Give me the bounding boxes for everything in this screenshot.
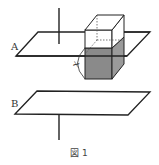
cube-front-upper [85, 30, 112, 48]
dimension-label-x: x [69, 60, 81, 69]
plane-b-label: B [11, 98, 18, 109]
plane-a-label: A [10, 41, 19, 52]
plane-a [16, 32, 150, 56]
plane-b [15, 91, 150, 115]
cube-front-submerged [85, 48, 112, 79]
figure-1-diagram: x A B 図 1 [0, 0, 159, 165]
figure-caption: 図 1 [70, 148, 88, 158]
